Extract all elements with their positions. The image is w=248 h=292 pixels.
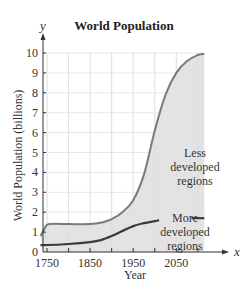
y-tick-label: 7 — [32, 106, 38, 120]
y-axis-label: World Population (billions) — [11, 86, 26, 226]
y-tick-label: 5 — [32, 146, 38, 160]
y-tick-label: 6 — [32, 126, 38, 140]
y-tick-label: 8 — [32, 86, 38, 100]
annotation-line: Less — [160, 146, 230, 160]
x-axis-symbol: x — [233, 244, 240, 259]
y-tick-label: 3 — [32, 185, 38, 199]
x-tick-label: 1750 — [35, 256, 59, 270]
x-tick-label: 1850 — [78, 256, 102, 270]
annotation-less-developed: Less developed regions — [160, 146, 230, 188]
x-axis-label: Year — [100, 268, 170, 283]
annotation-line: regions — [150, 239, 220, 253]
annotation-more-developed: More developed regions — [150, 211, 220, 253]
chart-title: World Population — [0, 18, 248, 34]
annotation-line: regions — [160, 174, 230, 188]
y-tick-label: 1 — [32, 225, 38, 239]
y-tick-label: 2 — [32, 205, 38, 219]
annotation-line: developed — [160, 160, 230, 174]
y-tick-label: 10 — [26, 46, 38, 60]
annotation-line: developed — [150, 225, 220, 239]
y-tick-label: 4 — [32, 165, 38, 179]
y-axis-arrow-icon — [41, 33, 46, 40]
annotation-line: More — [150, 211, 220, 225]
x-axis-arrow-icon — [222, 250, 229, 255]
y-tick-label: 9 — [32, 66, 38, 80]
